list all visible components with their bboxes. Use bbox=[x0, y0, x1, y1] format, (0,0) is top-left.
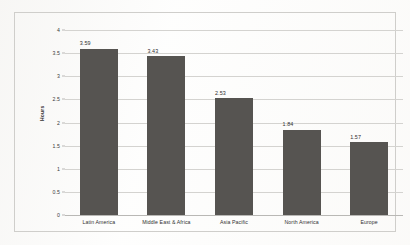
bar-value-label: 1.84 bbox=[283, 121, 294, 127]
bar-slot: 1.84 bbox=[268, 30, 336, 215]
x-axis-label: Europe bbox=[335, 219, 403, 225]
chart-frame: Hours 00.511.522.533.54 3.593.432.531.84… bbox=[14, 12, 396, 232]
y-tick-label: 0.5 bbox=[52, 189, 60, 195]
bar[interactable]: 2.53 bbox=[215, 98, 253, 215]
y-axis-title: Hours bbox=[39, 106, 45, 121]
y-tick-label: 1.5 bbox=[52, 143, 60, 149]
y-tick-label: 0 bbox=[57, 212, 60, 218]
bar[interactable]: 1.57 bbox=[350, 142, 388, 215]
y-tick-label: 3.5 bbox=[52, 50, 60, 56]
bar-slot: 2.53 bbox=[200, 30, 268, 215]
x-axis-label: Latin America bbox=[65, 219, 133, 225]
x-axis-label: Asia Pacific bbox=[200, 219, 268, 225]
bar-value-label: 3.59 bbox=[80, 40, 91, 46]
bar-slot: 1.57 bbox=[335, 30, 403, 215]
bar[interactable]: 3.59 bbox=[80, 49, 118, 215]
bar-value-label: 1.57 bbox=[350, 134, 361, 140]
gridline bbox=[65, 215, 403, 216]
y-tick-label: 2 bbox=[57, 120, 60, 126]
bar-series: 3.593.432.531.841.57 bbox=[65, 30, 403, 215]
x-axis-labels: Latin AmericaMiddle East & AfricaAsia Pa… bbox=[65, 219, 403, 225]
bar[interactable]: 3.43 bbox=[147, 56, 185, 215]
chart-page: Hours 00.511.522.533.54 3.593.432.531.84… bbox=[0, 0, 410, 245]
bar-slot: 3.59 bbox=[65, 30, 133, 215]
bar[interactable]: 1.84 bbox=[283, 130, 321, 215]
y-tick-label: 2.5 bbox=[52, 96, 60, 102]
y-tick-label: 4 bbox=[57, 27, 60, 33]
y-tick-label: 3 bbox=[57, 73, 60, 79]
bar-slot: 3.43 bbox=[133, 30, 201, 215]
x-axis-label: Middle East & Africa bbox=[133, 219, 201, 225]
y-tick-label: 1 bbox=[57, 166, 60, 172]
x-axis-label: North America bbox=[268, 219, 336, 225]
bar-value-label: 3.43 bbox=[147, 48, 158, 54]
plot-area: 00.511.522.533.54 3.593.432.531.841.57 bbox=[65, 30, 403, 215]
bar-value-label: 2.53 bbox=[215, 90, 226, 96]
